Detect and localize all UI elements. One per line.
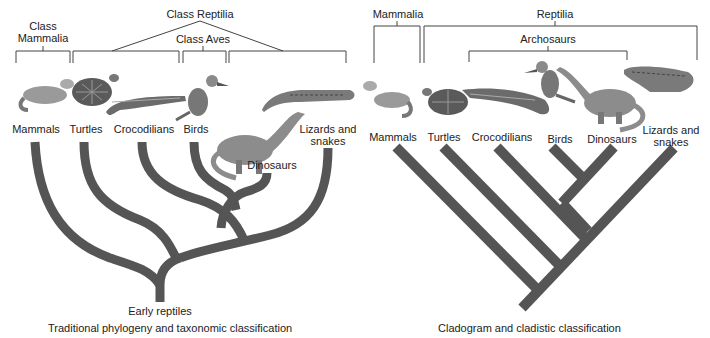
taxon-label-crocodilians: Crocodilians bbox=[112, 123, 176, 135]
right-animals bbox=[363, 61, 694, 130]
group-label-class-mammalia: Class Mammalia bbox=[10, 20, 76, 44]
lizard-icon bbox=[262, 90, 355, 112]
bracket-class-aves bbox=[183, 46, 226, 63]
bracket-mammalia bbox=[374, 21, 420, 63]
branch-mammals bbox=[35, 142, 160, 285]
taxon-label-birds: Birds bbox=[180, 123, 212, 135]
group-label-archosaurs: Archosaurs bbox=[508, 33, 588, 45]
cladogram-tree bbox=[396, 147, 674, 308]
lizard-icon bbox=[624, 66, 694, 92]
bracket-archosaurs bbox=[469, 46, 627, 62]
taxon-label-line: Lizards and bbox=[296, 123, 360, 135]
group-label-class-reptilia: Class Reptilia bbox=[150, 8, 250, 20]
clade-birds bbox=[552, 147, 585, 180]
taxon-label-lizards-snakes: Lizards and snakes bbox=[296, 123, 360, 147]
crocodile-icon bbox=[106, 96, 186, 115]
trunk-early-reptiles bbox=[160, 258, 180, 302]
taxon-label-mammals: Mammals bbox=[365, 131, 421, 143]
taxon-label-dinosaurs: Dinosaurs bbox=[584, 133, 640, 145]
group-label-line: Mammalia bbox=[10, 32, 76, 44]
crocodile-icon bbox=[462, 88, 549, 114]
root-label-early-reptiles: Early reptiles bbox=[120, 305, 200, 317]
branch-turtles bbox=[84, 142, 178, 262]
group-label-reptilia: Reptilia bbox=[520, 8, 590, 20]
taxon-label-turtles: Turtles bbox=[424, 131, 464, 143]
group-label-line: Class bbox=[10, 20, 76, 32]
ferret-icon bbox=[21, 79, 74, 110]
turtle-icon bbox=[72, 74, 119, 106]
taxon-label-crocodilians: Crocodilians bbox=[470, 131, 534, 143]
taxon-label-line: Lizards and bbox=[638, 124, 704, 136]
taxon-label-line: snakes bbox=[296, 135, 360, 147]
taxon-label-dinosaurs: Dinosaurs bbox=[244, 159, 300, 171]
taxon-label-line: snakes bbox=[638, 136, 704, 148]
group-label-mammalia: Mammalia bbox=[365, 8, 431, 20]
ferret-icon bbox=[363, 81, 411, 116]
group-label-class-aves: Class Aves bbox=[168, 33, 238, 45]
taxon-label-lizards-snakes: Lizards and snakes bbox=[638, 124, 704, 148]
clade-trunk bbox=[522, 148, 674, 308]
taxon-label-birds: Birds bbox=[544, 133, 576, 145]
turtle-icon bbox=[422, 88, 468, 115]
taxon-label-mammals: Mammals bbox=[8, 123, 64, 135]
bracket-reptilia-right bbox=[229, 51, 346, 63]
left-panel-caption: Traditional phylogeny and taxonomic clas… bbox=[48, 322, 292, 334]
bracket-class-mammalia bbox=[16, 46, 70, 63]
taxon-label-turtles: Turtles bbox=[66, 123, 106, 135]
bracket-reptilia-left bbox=[73, 51, 179, 63]
diagram-canvas bbox=[0, 0, 710, 338]
right-panel-caption: Cladogram and cladistic classification bbox=[438, 322, 621, 334]
clade-dinosaurs bbox=[562, 147, 614, 203]
